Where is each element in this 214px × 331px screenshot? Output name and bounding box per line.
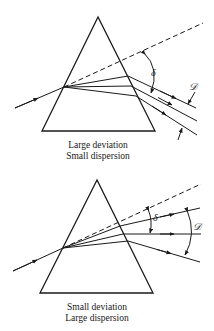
deviation-arc [148,209,151,233]
prism-triangle [42,17,155,131]
incident-arrow-icon [15,98,38,108]
dispersion-arc [185,210,192,255]
exit-arrow-icon [160,214,174,217]
deviation-symbol: δ [151,67,156,78]
prism-diagram-figure: δ 𝒟 Large deviation Small dispersion δ 𝒟… [0,0,214,331]
incident-arrow-icon [13,260,37,271]
top-prism-diagram [15,17,203,140]
exit-arrow-icon [152,106,166,115]
internal-ray-2 [64,86,131,87]
exit-arrow-icon [160,91,176,99]
deviation-symbol: δ [153,212,158,223]
undeviated-dashed-line [64,23,203,87]
undeviated-dashed-line [63,184,201,248]
internal-ray-1 [64,76,128,87]
caption-line-2: Small dispersion [66,151,130,161]
exit-arrow-icon [157,250,171,254]
prism-triangle [40,180,153,293]
dispersion-pointer-bottom [178,128,182,140]
dispersion-symbol: 𝒟 [193,221,203,232]
dispersion-symbol: 𝒟 [189,81,199,92]
internal-ray-3 [64,87,136,96]
dispersion-pointer-top [188,92,195,104]
bottom-prism-diagram [13,180,201,293]
caption-line-2: Large dispersion [65,313,129,323]
caption-line-1: Large deviation [68,140,128,150]
caption-line-1: Small deviation [67,302,127,312]
